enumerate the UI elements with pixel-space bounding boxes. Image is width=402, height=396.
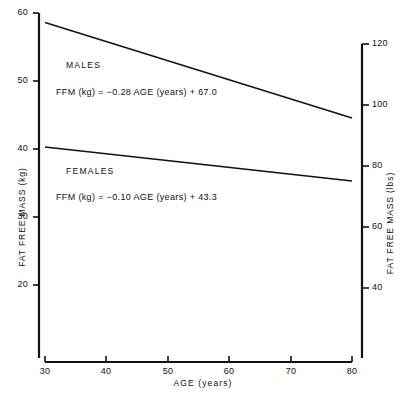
bottom-tick-label-70: 70 (278, 366, 304, 376)
left-axis-title: FAT FREE MASS (kg) (17, 147, 27, 287)
bottom-axis-title: AGE (years) (138, 378, 268, 388)
bottom-tick-label-60: 60 (216, 366, 242, 376)
left-tick-label-50: 50 (2, 75, 28, 85)
right-tick-label-100: 100 (372, 99, 398, 109)
right-axis-title: FAT FREE MASS (lbs) (385, 153, 395, 293)
series-equation-females: FFM (kg) = −0.10 AGE (years) + 43.3 (56, 192, 217, 202)
bottom-tick-label-30: 30 (32, 366, 58, 376)
bottom-tick-label-80: 80 (339, 366, 365, 376)
bottom-tick-label-40: 40 (93, 366, 119, 376)
series-equation-males: FFM (kg) = −0.28 AGE (years) + 67.0 (56, 87, 217, 97)
left-tick-label-60: 60 (2, 7, 28, 17)
series-label-males: MALES (66, 60, 101, 70)
series-line-males (45, 23, 352, 119)
right-tick-label-120: 120 (372, 38, 398, 48)
fat-free-mass-vs-age-chart: 60 50 40 30 20 120 100 80 60 40 30 40 50… (0, 0, 402, 396)
series-label-females: FEMALES (66, 166, 115, 176)
bottom-tick-label-50: 50 (155, 366, 181, 376)
